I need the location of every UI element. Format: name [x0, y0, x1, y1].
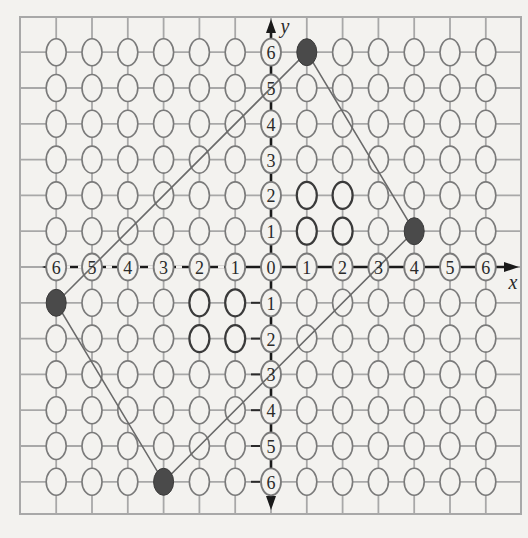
grid-point [225, 218, 245, 245]
x-tick-label: 0 [267, 258, 276, 278]
grid-point [440, 39, 460, 66]
grid-point [46, 218, 66, 245]
grid-point [154, 289, 174, 316]
grid-point [368, 468, 388, 495]
grid-point [440, 361, 460, 388]
grid-point [189, 397, 209, 424]
vertex-point [297, 39, 317, 66]
grid-point [297, 182, 317, 209]
y-tick-label: 6 [267, 473, 276, 493]
grid-point [297, 110, 317, 137]
grid-point [368, 397, 388, 424]
grid-point [440, 433, 460, 460]
grid-point [189, 289, 209, 316]
grid-point [368, 289, 388, 316]
grid-point [333, 146, 353, 173]
grid-point [404, 289, 424, 316]
y-axis-arrow-up-icon [266, 19, 276, 33]
grid-point [46, 361, 66, 388]
grid-point [404, 361, 424, 388]
grid-point [225, 468, 245, 495]
grid-point [225, 146, 245, 173]
grid-point [225, 289, 245, 316]
grid-point [404, 397, 424, 424]
grid-point [440, 397, 460, 424]
grid-point [46, 75, 66, 102]
grid-point [118, 146, 138, 173]
grid-point [225, 361, 245, 388]
grid-point [118, 325, 138, 352]
grid-point [440, 146, 460, 173]
grid-point [404, 182, 424, 209]
y-tick-label: 4 [267, 401, 276, 421]
grid-point [189, 75, 209, 102]
grid-point [225, 325, 245, 352]
grid-point [404, 433, 424, 460]
x-tick-label: 1 [302, 258, 311, 278]
grid-point [154, 397, 174, 424]
grid-point [476, 289, 496, 316]
grid-point [368, 218, 388, 245]
x-tick-label: 5 [446, 258, 455, 278]
grid-point [404, 75, 424, 102]
grid-point [368, 182, 388, 209]
y-tick-label: 5 [267, 437, 276, 457]
grid-point [476, 146, 496, 173]
grid-point [333, 182, 353, 209]
grid-point [118, 182, 138, 209]
grid-point [476, 75, 496, 102]
grid-point [118, 39, 138, 66]
x-tick-label: 1 [231, 258, 240, 278]
grid-point [225, 75, 245, 102]
grid-point [297, 75, 317, 102]
y-tick-label: 3 [267, 151, 276, 171]
grid-point [118, 433, 138, 460]
y-tick-label: 6 [267, 43, 276, 63]
grid-point [333, 325, 353, 352]
grid-point [118, 75, 138, 102]
grid-point [46, 146, 66, 173]
x-tick-label: 3 [159, 258, 168, 278]
grid-point [225, 39, 245, 66]
grid-point [333, 468, 353, 495]
grid-point [46, 110, 66, 137]
x-axis-label: x [508, 271, 518, 293]
x-tick-label: 6 [481, 258, 490, 278]
grid-point [82, 397, 102, 424]
y-tick-label: 2 [267, 330, 276, 350]
grid-point [476, 325, 496, 352]
grid-point [368, 110, 388, 137]
grid-point [46, 433, 66, 460]
grid-point [118, 361, 138, 388]
grid-point [154, 325, 174, 352]
grid-point [297, 397, 317, 424]
y-axis-arrow-down-icon [266, 496, 276, 510]
grid-point [368, 39, 388, 66]
grid-point [118, 468, 138, 495]
grid-point [225, 433, 245, 460]
grid-point [46, 39, 66, 66]
grid-point [440, 218, 460, 245]
grid-point [404, 325, 424, 352]
grid-point [476, 218, 496, 245]
grid-point [404, 39, 424, 66]
grid-point [118, 110, 138, 137]
grid-point [154, 110, 174, 137]
grid-point [82, 468, 102, 495]
x-tick-label: 2 [195, 258, 204, 278]
grid-point [118, 289, 138, 316]
grid-point [297, 468, 317, 495]
vertex-point [404, 218, 424, 245]
grid-point [297, 361, 317, 388]
grid-point [404, 146, 424, 173]
y-tick-label: 4 [267, 115, 276, 135]
grid-point [189, 39, 209, 66]
grid-point [189, 218, 209, 245]
grid-point [82, 39, 102, 66]
grid-point [154, 433, 174, 460]
grid-point [476, 433, 496, 460]
grid-point [440, 325, 460, 352]
y-tick-label: 2 [267, 186, 276, 206]
grid-point [82, 218, 102, 245]
grid-point [368, 433, 388, 460]
